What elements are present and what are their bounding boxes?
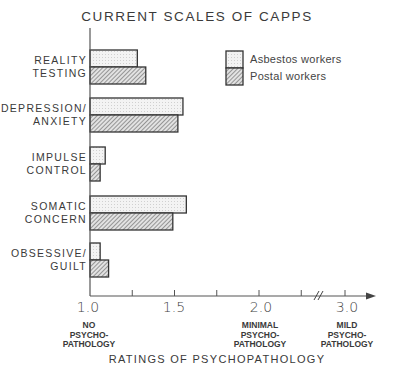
legend-swatch-asbestos (226, 51, 243, 68)
x-tick-label: 1.0 (77, 299, 99, 315)
category-label: REALITY TESTING (32, 54, 87, 80)
category-label: OBSESSIVE/ GUILT (11, 247, 87, 273)
x-tick-label: 3.0 (336, 299, 358, 315)
axis-arrow-icon (366, 293, 376, 300)
bars-group (90, 50, 186, 277)
bar-postal (90, 115, 178, 132)
x-tick-label: 1.5 (163, 299, 185, 315)
category-label: SOMATIC CONCERN (25, 200, 87, 226)
legend-label: Asbestos workers (250, 53, 342, 65)
legend-swatch-postal (226, 68, 243, 85)
x-anchor-label: MILD PSYCHO- PATHOLOGY (321, 321, 374, 350)
legend (226, 51, 243, 85)
bar-asbestos (90, 147, 105, 164)
category-label: IMPULSE CONTROL (27, 151, 87, 177)
bar-asbestos (90, 50, 137, 67)
x-anchor-label: MINIMAL PSYCHO- PATHOLOGY (234, 321, 287, 350)
bar-postal (90, 260, 109, 277)
bar-postal (90, 67, 146, 84)
bar-asbestos (90, 196, 186, 213)
x-anchor-label: NO PSYCHO- PATHOLOGY (63, 321, 116, 350)
bar-postal (90, 213, 173, 230)
x-axis-label: RATINGS OF PSYCHOPATHOLOGY (0, 353, 394, 365)
category-label: DEPRESSION/ ANXIETY (1, 102, 87, 128)
x-tick-label: 2.0 (250, 299, 272, 315)
bar-postal (90, 164, 100, 181)
legend-label: Postal workers (250, 70, 326, 82)
bar-asbestos (90, 243, 100, 260)
bar-asbestos (90, 98, 183, 115)
